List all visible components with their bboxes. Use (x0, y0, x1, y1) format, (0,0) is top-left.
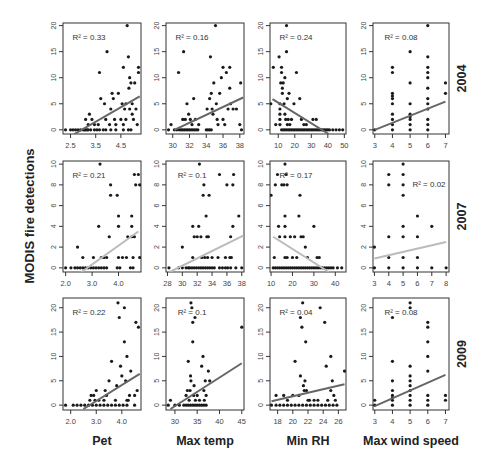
y-tick-label: 0 (153, 403, 160, 407)
data-point (426, 55, 429, 58)
data-point (213, 266, 216, 269)
data-point (199, 235, 202, 238)
data-point (409, 365, 412, 368)
data-point (122, 128, 125, 131)
x-tick-label: 18 (273, 417, 281, 426)
data-point (125, 399, 128, 402)
data-point (99, 97, 102, 100)
y-tick-label: 5 (257, 102, 264, 106)
x-tick-label: 3.0 (87, 279, 97, 288)
x-tick-label: 20 (288, 279, 296, 288)
data-point (426, 66, 429, 69)
data-point (277, 225, 280, 228)
data-point (102, 404, 105, 407)
data-point (123, 306, 126, 309)
data-point (137, 326, 140, 329)
x-tick-label: 38 (238, 279, 246, 288)
scatter-panel-2009-min-rh: 051015201820222426R² = 0.04 (257, 298, 346, 426)
data-point (209, 55, 212, 58)
data-point (131, 266, 134, 269)
y-tick-label: 2 (153, 245, 160, 249)
x-tick-label: 40 (215, 417, 223, 426)
data-point (114, 399, 117, 402)
data-point (286, 183, 289, 186)
y-tick-label: 5 (360, 102, 367, 106)
r-squared-label: R² = 0.1 (178, 308, 207, 317)
y-tick-label: 10 (153, 160, 160, 168)
data-point (286, 256, 289, 259)
data-point (79, 404, 82, 407)
data-point (426, 399, 429, 402)
data-point (323, 321, 326, 324)
data-point (75, 404, 78, 407)
y-tick-label: 8 (153, 183, 160, 187)
data-point (409, 374, 412, 377)
x-tick-label: 30 (310, 279, 318, 288)
y-tick-label: 15 (257, 48, 264, 56)
data-point (196, 394, 199, 397)
data-point (184, 394, 187, 397)
scatter-panel-2009-max-wind-speed: 0510152034567R² = 0.08 (360, 298, 449, 426)
data-point (189, 379, 192, 382)
data-point (391, 71, 394, 74)
data-point (202, 183, 205, 186)
y-tick-label: 4 (153, 224, 160, 228)
r-squared-label: R² = 0.08 (384, 33, 418, 42)
data-point (133, 394, 136, 397)
x-tick-label: 3.0 (91, 417, 101, 426)
column-label: Max temp (176, 434, 234, 448)
data-point (98, 404, 101, 407)
data-point (129, 369, 132, 372)
data-point (89, 128, 92, 131)
x-tick-label: 20 (289, 417, 297, 426)
data-point (226, 107, 229, 110)
data-point (218, 92, 221, 95)
data-point (121, 404, 124, 407)
data-point (291, 256, 294, 259)
data-point (133, 173, 136, 176)
data-point (189, 301, 192, 304)
y-tick-label: 15 (50, 48, 57, 56)
y-tick-label: 10 (153, 74, 160, 82)
data-point (190, 123, 193, 126)
data-point (218, 266, 221, 269)
data-point (225, 183, 228, 186)
data-point (402, 173, 405, 176)
data-point (290, 118, 293, 121)
data-point (278, 235, 281, 238)
x-tick-label: 4 (390, 141, 394, 150)
data-point (229, 235, 232, 238)
data-point (278, 107, 281, 110)
y-tick-label: 5 (153, 379, 160, 383)
column-labels: PetMax tempMin RHMax wind speed (92, 434, 459, 448)
data-point (216, 256, 219, 259)
x-tick-label: 34 (202, 141, 210, 150)
data-point (293, 404, 296, 407)
data-point (105, 50, 108, 53)
column-label: Min RH (286, 434, 329, 448)
data-point (169, 123, 172, 126)
x-tick-label: 6 (426, 417, 430, 426)
data-point (235, 107, 238, 110)
data-point (274, 404, 277, 407)
y-tick-label: 8 (50, 183, 57, 187)
data-point (138, 256, 141, 259)
data-point (302, 235, 305, 238)
data-point (215, 102, 218, 105)
data-point (210, 128, 213, 131)
data-point (409, 123, 412, 126)
scatter-panel-2007-pet: 02468102.03.04.0R² = 0.21 (50, 160, 141, 288)
data-points (167, 301, 244, 406)
data-point (324, 404, 327, 407)
y-tick-label: 8 (360, 183, 367, 187)
data-point (128, 394, 131, 397)
data-point (387, 235, 390, 238)
data-point (326, 399, 329, 402)
data-point (391, 92, 394, 95)
data-point (210, 92, 213, 95)
data-point (305, 123, 308, 126)
data-point (114, 128, 117, 131)
data-point (118, 266, 121, 269)
data-point (283, 163, 286, 166)
data-point (122, 123, 125, 126)
